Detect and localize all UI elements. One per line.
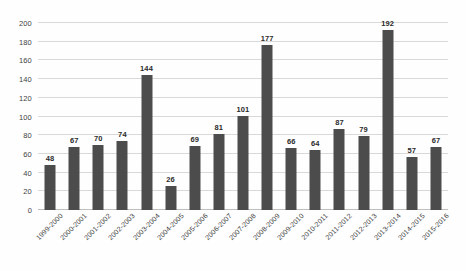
bar-group: 66 [279,23,303,210]
bar-value-label: 192 [381,19,394,28]
bar-group: 79 [352,23,376,210]
bar-value-label: 57 [408,146,417,155]
bar-value-label: 79 [359,125,368,134]
y-axis-tick-label: 80 [23,131,32,140]
bar [406,157,417,210]
bar-chart: 020406080100120140160180200 486770741442… [0,0,466,271]
bar-value-label: 87 [335,118,344,127]
bar-group: 74 [110,23,134,210]
bar [430,147,441,210]
x-axis: 1999-20002000-20012001-20022002-20032003… [38,212,448,271]
y-axis-tick-label: 20 [23,187,32,196]
bar-group: 69 [183,23,207,210]
y-axis-tick-label: 0 [28,206,32,215]
bar [310,150,321,210]
bar-group: 192 [376,23,400,210]
bar-value-label: 144 [140,64,153,73]
bar [117,141,128,210]
bar-value-label: 48 [46,154,55,163]
plot-area: 48677074144266981101177666487791925767 [38,23,448,210]
bar-group: 87 [327,23,351,210]
bar [141,75,152,210]
bar-value-label: 70 [94,134,103,143]
bar-group: 101 [231,23,255,210]
y-axis-tick-label: 180 [19,37,32,46]
bar [165,186,176,210]
bar-group: 48 [38,23,62,210]
bar-value-label: 74 [118,130,127,139]
y-axis-tick-label: 120 [19,93,32,102]
bar-group: 177 [255,23,279,210]
bar-group: 144 [134,23,158,210]
bar-value-label: 67 [432,136,441,145]
y-axis-tick-label: 100 [19,112,32,121]
bar-value-label: 69 [190,135,199,144]
bar [45,165,56,210]
bar [213,134,224,210]
bar-value-label: 81 [215,123,224,132]
y-axis-tick-label: 160 [19,56,32,65]
bar-group: 64 [303,23,327,210]
y-axis-tick-label: 200 [19,19,32,28]
bar-group: 57 [400,23,424,210]
bar-group: 67 [62,23,86,210]
bar-group: 67 [424,23,448,210]
bar-value-label: 177 [261,34,274,43]
y-axis-tick-label: 60 [23,149,32,158]
y-axis-tick-label: 140 [19,75,32,84]
y-axis: 020406080100120140160180200 [0,0,38,271]
bar [334,129,345,210]
bar [237,116,248,210]
bar-value-label: 64 [311,139,320,148]
bar-value-label: 66 [287,137,296,146]
bar-group: 81 [207,23,231,210]
bar [69,147,80,210]
bar [262,45,273,210]
bar [189,146,200,211]
bar [93,145,104,210]
bar-value-label: 26 [166,175,175,184]
bar-group: 26 [159,23,183,210]
bar [286,148,297,210]
y-axis-tick-label: 40 [23,168,32,177]
bar [358,136,369,210]
bar-value-label: 101 [237,105,250,114]
bar-value-label: 67 [70,136,79,145]
bar [382,30,393,210]
bar-group: 70 [86,23,110,210]
